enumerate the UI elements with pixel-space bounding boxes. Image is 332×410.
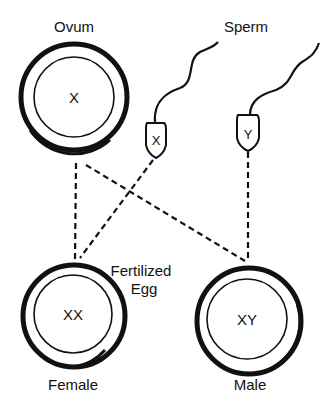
fertilized-egg-label-line2: Egg (131, 280, 158, 297)
female-chromosomes: XX (63, 306, 83, 323)
line-ovum-to-male (86, 165, 245, 261)
ovum-chromosome: X (69, 89, 79, 106)
sperm-x-tail (155, 42, 218, 123)
sperm-y: Y (237, 43, 319, 151)
sperm-label: Sperm (224, 18, 268, 35)
female-egg: XX (23, 265, 125, 367)
connection-lines (75, 152, 248, 261)
male-label: Male (234, 376, 267, 393)
line-ovum-to-female (75, 163, 76, 259)
female-label: Female (48, 376, 98, 393)
sperm-x-chromosome: X (152, 133, 161, 148)
male-chromosomes: XY (237, 311, 257, 328)
male-egg: XY (197, 268, 301, 374)
sperm-y-chromosome: Y (244, 127, 253, 142)
sex-determination-diagram: X Ovum Sperm X Y Fertilized Egg XX Femal… (0, 0, 332, 410)
fertilized-egg-label-line1: Fertilized (111, 262, 172, 279)
ovum-cell: X (21, 44, 127, 154)
ovum-label: Ovum (54, 18, 94, 35)
sperm-y-tail (250, 43, 319, 115)
sperm-x: X (146, 42, 218, 158)
line-sperm-x-to-female (80, 160, 153, 258)
